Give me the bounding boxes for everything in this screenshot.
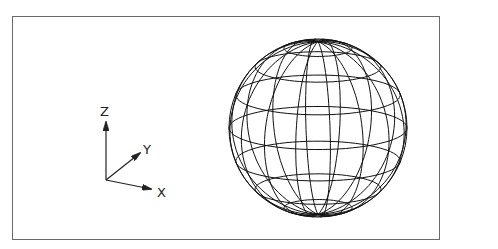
ucs-icon: Z Y X <box>100 104 166 200</box>
y-axis-line <box>106 153 140 180</box>
longitude-line <box>318 42 330 217</box>
drawing-canvas: Z Y X <box>0 0 498 249</box>
latitude-line <box>229 107 407 150</box>
x-axis-label: X <box>157 185 166 200</box>
y-axis-label: Y <box>142 142 151 157</box>
x-axis-line <box>106 180 151 189</box>
z-axis-label: Z <box>100 104 109 119</box>
latitude-line <box>236 141 400 181</box>
longitude-line <box>264 42 318 217</box>
longitude-line <box>306 39 318 214</box>
latitude-line <box>236 75 400 115</box>
longitude-line <box>318 40 372 215</box>
wireframe-sphere[interactable] <box>229 39 407 217</box>
